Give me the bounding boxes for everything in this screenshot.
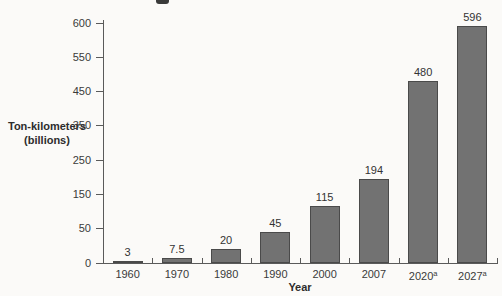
- y-axis-tick-label: 600: [61, 18, 91, 29]
- bar-value-label: 45: [255, 217, 295, 229]
- bar-1970: [162, 258, 192, 263]
- x-category-label: 1980: [202, 268, 250, 280]
- y-axis-tick: [96, 91, 103, 92]
- bar-1990: [260, 232, 290, 263]
- bar-2007: [359, 179, 389, 263]
- x-axis-tick-label: 2000: [312, 268, 336, 280]
- x-axis-tick: [300, 258, 301, 263]
- y-axis-tick: [96, 57, 103, 58]
- x-axis-tick-label: 1960: [115, 268, 139, 280]
- y-axis-tick: [96, 228, 103, 229]
- x-axis-tick-label: 2007: [362, 268, 386, 280]
- y-axis-tick: [96, 160, 103, 161]
- x-axis-tick-label: 1970: [165, 268, 189, 280]
- y-axis-tick-label: 550: [61, 52, 91, 63]
- x-category-label: 1960: [104, 268, 152, 280]
- x-axis-tick: [399, 258, 400, 263]
- bar-value-label: 20: [206, 234, 246, 246]
- x-axis-tick-label: 1990: [263, 268, 287, 280]
- cropped-title-fragment: [156, 0, 169, 4]
- y-axis-line: [103, 20, 104, 264]
- bar-2000: [310, 206, 340, 263]
- bar-1960: [113, 261, 143, 263]
- y-axis-tick-label: 0: [61, 258, 91, 269]
- x-axis-tick: [448, 258, 449, 263]
- x-axis-tick: [251, 258, 252, 263]
- x-axis-tick-label: 2027: [458, 270, 482, 282]
- x-axis-tick-label: 1980: [214, 268, 238, 280]
- y-axis-tick-label: 150: [61, 189, 91, 200]
- x-category-label: 2000: [301, 268, 349, 280]
- projected-footnote-marker: a: [433, 269, 437, 278]
- projected-footnote-marker: a: [483, 269, 487, 278]
- x-axis-tick: [497, 258, 498, 263]
- y-axis-tick: [96, 23, 103, 24]
- bar-value-label: 115: [305, 191, 345, 203]
- chart-canvas: Ton-kilometers (billions) Year 050150250…: [0, 0, 502, 296]
- y-axis-tick: [96, 263, 103, 264]
- x-category-label: 2007: [350, 268, 398, 280]
- y-axis-tick: [96, 125, 103, 126]
- y-axis-tick-label: 450: [61, 86, 91, 97]
- x-axis-tick: [202, 258, 203, 263]
- x-category-label: 2027a: [448, 268, 496, 282]
- x-category-label: 1990: [251, 268, 299, 280]
- bar-value-label: 7.5: [157, 243, 197, 255]
- y-axis-tick-label: 50: [61, 223, 91, 234]
- x-axis-tick-label: 2020: [409, 270, 433, 282]
- x-axis-tick: [152, 258, 153, 263]
- x-category-label: 2020a: [399, 268, 447, 282]
- y-axis-tick-label: 350: [61, 120, 91, 131]
- bar-2027: [457, 26, 487, 263]
- x-category-label: 1970: [153, 268, 201, 280]
- bar-2020: [408, 81, 438, 263]
- bar-value-label: 480: [403, 66, 443, 78]
- bar-value-label: 194: [354, 164, 394, 176]
- y-axis-tick: [96, 194, 103, 195]
- bar-value-label: 3: [108, 246, 148, 258]
- x-axis-line: [103, 263, 498, 264]
- bar-1980: [211, 249, 241, 263]
- x-axis-tick: [349, 258, 350, 263]
- y-axis-title-line2: (billions): [4, 134, 90, 147]
- y-axis-tick-label: 250: [61, 155, 91, 166]
- x-axis-title: Year: [275, 281, 325, 294]
- bar-value-label: 596: [452, 11, 492, 23]
